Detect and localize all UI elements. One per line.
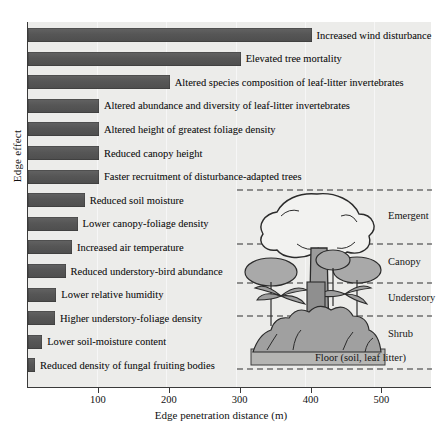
bar-label: Lower relative humidity [56,289,163,300]
canopy-tree-left [245,258,297,286]
bar-label: Faster recruitment of disturbance-adapte… [99,171,302,182]
bar-label: Reduced density of fungal fruiting bodie… [35,360,215,371]
bar-row: Lower canopy-foliage density [28,217,209,231]
y-axis-label: Edge effect [11,111,23,201]
bar-row: Reduced soil moisture [28,193,184,207]
bar-label: Reduced understory-bird abundance [66,266,223,277]
bar-label: Increased wind disturbance [312,30,432,41]
bar [28,264,66,278]
x-axis: 100200300400500 [27,388,431,428]
x-tick [240,388,241,393]
figure-edge-effects: Edge effect Increased wind disturbanceEl… [0,0,442,433]
bar-row: Reduced canopy height [28,146,202,160]
bar [28,240,72,254]
bar-row: Elevated tree mortality [28,52,342,66]
stratum-label-emergent: Emergent [388,210,429,221]
stratum-label-floor: Floor (soil, leaf litter) [315,352,406,363]
bar [28,146,99,160]
bar-label: Higher understory-foliage density [55,313,202,324]
bar [28,28,312,42]
bar-row: Higher understory-foliage density [28,311,202,325]
bar [28,288,56,302]
bar [28,193,85,207]
x-axis-title: Edge penetration distance (m) [0,409,442,421]
bar-label: Reduced soil moisture [85,195,184,206]
bar-label: Elevated tree mortality [241,53,342,64]
bar [28,335,42,349]
bar [28,170,99,184]
bar-row: Reduced understory-bird abundance [28,264,223,278]
bar-row: Lower soil-moisture content [28,335,166,349]
bar-label: Altered abundance and diversity of leaf-… [99,100,350,111]
forest-strata-diagram: Emergent Canopy Understory Shrub Floor (… [237,186,432,378]
bar [28,52,241,66]
bar-row: Faster recruitment of disturbance-adapte… [28,170,302,184]
bar-row: Reduced density of fungal fruiting bodie… [28,358,215,372]
bar-row: Altered species composition of leaf-litt… [28,75,404,89]
stratum-label-shrub: Shrub [388,328,413,339]
plot-area: Increased wind disturbanceElevated tree … [27,22,431,388]
bar-row: Lower relative humidity [28,288,163,302]
x-tick-label: 200 [161,394,177,405]
x-tick [98,388,99,393]
x-tick [169,388,170,393]
bar-row: Increased wind disturbance [28,28,431,42]
stratum-label-understory: Understory [388,292,435,303]
bar [28,311,55,325]
bar [28,122,99,136]
x-tick-label: 400 [303,394,319,405]
bar-label: Lower soil-moisture content [42,336,166,347]
canopy-tree-mid [316,250,350,270]
bar-label: Altered height of greatest foliage densi… [99,124,276,135]
x-tick [311,388,312,393]
x-tick [381,388,382,393]
bar-label: Lower canopy-foliage density [78,218,209,229]
bar [28,99,99,113]
bar-label: Increased air temperature [72,242,184,253]
bar [28,217,78,231]
bar-row: Altered height of greatest foliage densi… [28,122,276,136]
shrub-layer [253,306,381,352]
x-tick-label: 300 [232,394,248,405]
bar-row: Increased air temperature [28,240,184,254]
bar-label: Reduced canopy height [99,148,203,159]
bar [28,75,170,89]
bar-row: Altered abundance and diversity of leaf-… [28,99,350,113]
x-tick-label: 500 [374,394,390,405]
bar-label: Altered species composition of leaf-litt… [170,77,404,88]
x-tick-label: 100 [90,394,106,405]
bar [28,358,35,372]
stratum-label-canopy: Canopy [388,256,421,267]
